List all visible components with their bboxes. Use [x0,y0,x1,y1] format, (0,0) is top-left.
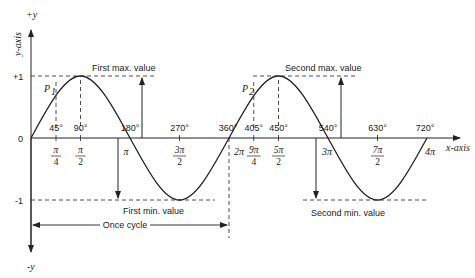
minus-y-label: -y [27,261,35,272]
svg-text:7π: 7π [373,145,383,155]
sine-wave-diagram: +y -y y-axis +1 -1 0 x-axis 45° 90° 180°… [0,0,475,278]
x-axis-label: x-axis [445,142,470,153]
point-p2: P 2 [241,83,254,97]
svg-text:P: P [43,83,50,94]
svg-text:630°: 630° [368,123,387,133]
svg-text:405°: 405° [244,123,263,133]
first-max-label: First max. value [92,63,156,73]
svg-text:5π: 5π [274,145,284,155]
radian-pi: π [123,146,129,157]
plus-one-label: +1 [13,72,23,82]
radian-4pi: 4π [425,146,436,157]
radian-9pi-4: 9π 4 [247,145,261,167]
svg-text:270°: 270° [170,123,189,133]
svg-text:π: π [78,145,83,155]
svg-text:2: 2 [249,86,254,97]
cycle-label: Once cycle [103,220,148,230]
svg-text:4: 4 [251,157,256,167]
minus-one-label: -1 [15,196,23,206]
svg-text:2: 2 [276,157,281,167]
y-axis-label: y-axis [12,32,23,57]
svg-text:90°: 90° [74,123,88,133]
svg-text:720°: 720° [416,123,435,133]
origin-label: 0 [18,134,23,144]
second-max-label: Second max. value [285,63,362,73]
radian-7pi-2: 7π 2 [371,145,384,167]
radian-3pi: 3π [321,146,333,157]
svg-text:9π: 9π [249,145,259,155]
degree-labels: 45° 90° 180° 270° 360° 405° 450° 540° 63… [49,123,435,133]
svg-text:2: 2 [375,157,380,167]
svg-text:180°: 180° [121,123,140,133]
radian-2pi: 2π [234,146,245,157]
svg-text:3π: 3π [174,145,185,155]
radian-3pi-2: 3π 2 [173,145,186,167]
svg-text:4: 4 [54,157,59,167]
point-p1: P 1 [43,83,56,97]
radian-pi-2: π 2 [76,145,86,167]
plus-y-label: +y [26,9,38,20]
svg-text:45°: 45° [49,123,63,133]
second-min-label: Second min. value [311,208,385,218]
svg-text:1: 1 [51,86,56,97]
radian-labels: π 4 π 2 π 3π 2 2π 9π 4 5π 2 3π 7π [51,145,436,167]
svg-text:360°: 360° [219,123,238,133]
svg-text:2: 2 [78,157,83,167]
svg-text:P: P [241,83,248,94]
svg-text:π: π [54,145,59,155]
radian-5pi-2: 5π 2 [272,145,285,167]
first-min-label: First min. value [123,206,184,216]
svg-text:450°: 450° [269,123,288,133]
svg-text:2: 2 [177,157,182,167]
svg-text:540°: 540° [319,123,338,133]
radian-pi-4: π 4 [51,145,61,167]
